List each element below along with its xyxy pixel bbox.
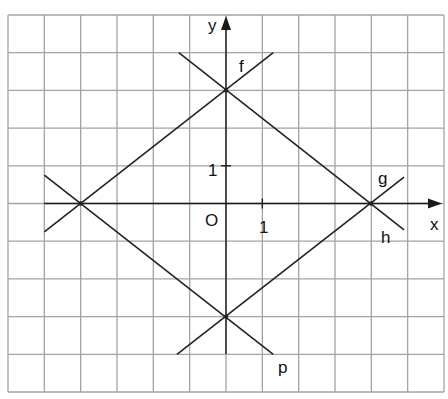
x-tick-label: 1 [259, 218, 268, 237]
line-f [44, 53, 273, 232]
labels: y x O 1 1 f h p g [205, 16, 439, 377]
intersection-point [78, 201, 82, 205]
y-tick-label: 1 [208, 161, 217, 180]
x-axis-arrow-icon [428, 199, 442, 209]
coordinate-diagram: y x O 1 1 f h p g [0, 0, 448, 399]
y-axis-label: y [208, 16, 217, 35]
origin-label: O [205, 211, 218, 230]
line-label-h: h [381, 228, 390, 247]
intersection-point [369, 201, 373, 205]
line-label-g: g [378, 169, 387, 188]
intersection-point [224, 88, 228, 92]
line-label-f: f [239, 57, 244, 76]
line-p [44, 175, 273, 354]
line-label-p: p [278, 358, 287, 377]
intersection-point [224, 314, 228, 318]
y-axis-arrow-icon [221, 16, 231, 30]
x-axis-label: x [430, 215, 439, 234]
